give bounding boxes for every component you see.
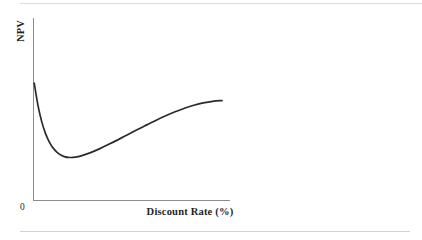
x-axis-title: Discount Rate (%) — [130, 206, 250, 217]
bottom-divider-rule — [20, 231, 410, 232]
npv-curve-path — [34, 83, 222, 158]
origin-tick-label: 0 — [20, 202, 25, 212]
figure-container: NPV Discount Rate (%) 0 — [0, 0, 422, 240]
y-axis-title: NPV — [13, 14, 27, 48]
plot-area — [0, 0, 422, 240]
y-axis-title-text: NPV — [15, 20, 26, 42]
